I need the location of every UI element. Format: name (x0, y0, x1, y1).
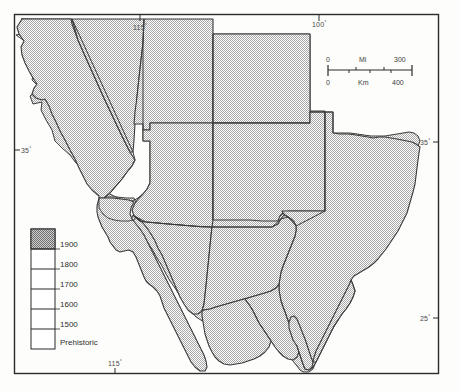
legend-label-1800: 1800 (60, 260, 78, 269)
region-colorado (213, 34, 310, 123)
scale-mi-end: 300 (394, 56, 406, 63)
legend-label-1900: 1900 (60, 240, 78, 249)
label-lat-35-right: 35° (420, 137, 430, 146)
label-lat-25-right: 25° (420, 313, 430, 322)
map-figure: 115° 100° 115° 35° 35° 25° 0 Mi 300 (0, 0, 460, 392)
scale-km-start: 0 (326, 79, 330, 86)
legend-label-1600: 1600 (60, 300, 78, 309)
label-lon-115-bottom: 115° (108, 358, 122, 367)
legend-swatch-1900 (31, 229, 55, 249)
scale-mi-unit: Mi (359, 56, 367, 63)
region-utah (134, 19, 213, 130)
scale-bar: 0 Mi 300 0 Km 400 (326, 56, 412, 86)
region-new-mexico (213, 112, 325, 221)
legend-label-prehistoric: Prehistoric (60, 338, 98, 347)
legend-label-1500: 1500 (60, 320, 78, 329)
region-arizona (132, 123, 213, 227)
scale-km-unit: Km (358, 79, 369, 86)
scale-km-end: 400 (392, 79, 404, 86)
map-canvas: 115° 100° 115° 35° 35° 25° 0 Mi 300 (0, 0, 460, 392)
state-silhouettes (17, 19, 420, 371)
label-lon-100-top: 100° (312, 19, 326, 28)
date-legend: 1900 1800 1700 1600 1500 Prehistoric (31, 229, 98, 349)
label-lat-35-left: 35° (21, 145, 31, 154)
scale-mi-start: 0 (326, 56, 330, 63)
legend-label-1700: 1700 (60, 280, 78, 289)
